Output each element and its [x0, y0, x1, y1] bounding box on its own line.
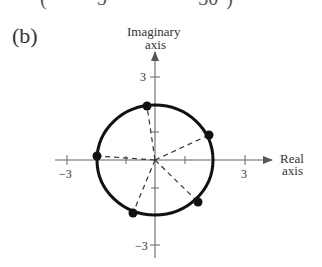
point-90deg: [143, 102, 152, 111]
point-18deg: [205, 131, 214, 140]
complex-plane-diagram: [0, 0, 322, 267]
point-234deg: [129, 209, 138, 218]
point-306deg: [194, 198, 203, 207]
point-162deg: [93, 152, 102, 161]
